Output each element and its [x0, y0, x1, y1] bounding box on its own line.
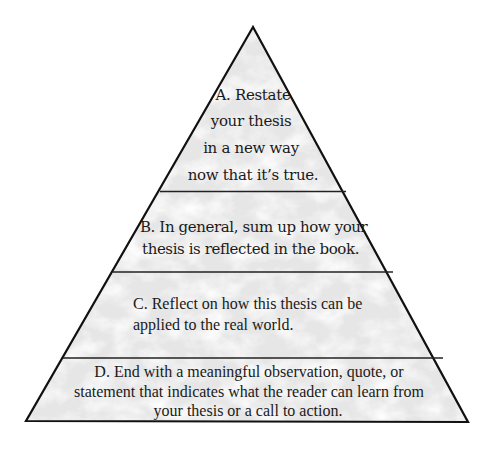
tier-a-line-2: your thesis [211, 114, 292, 129]
tier-d-line-2: statement that indicates what the reader… [74, 384, 424, 400]
tier-b-line-1: B. In general, sum up how your [140, 220, 367, 235]
tier-a-line-3: in a new way [203, 141, 299, 156]
tier-c-line-1: C. Reflect on how this thesis can be [133, 296, 362, 312]
tier-a-line-4: now that it’s true. [188, 168, 319, 183]
tier-d-line-1: D. End with a meaningful observation, qu… [94, 364, 403, 380]
tier-b-line-2: thesis is reflected in the book. [142, 242, 359, 257]
tier-d-line-3: your thesis or a call to action. [154, 403, 343, 419]
tier-c-line-2: applied to the real world. [133, 317, 293, 333]
tier-a-line-1: A. Restate [215, 88, 290, 103]
